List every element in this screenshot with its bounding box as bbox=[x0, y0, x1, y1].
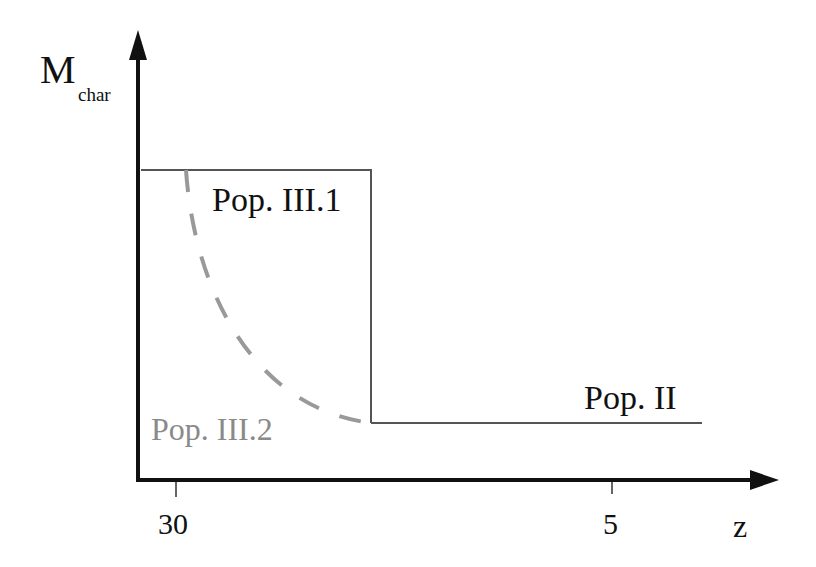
x-axis-label: z bbox=[733, 510, 747, 542]
y-axis-arrow-icon bbox=[129, 30, 147, 60]
y-axis-label-subscript: char bbox=[78, 85, 111, 104]
x-axis-arrow-icon bbox=[750, 470, 779, 490]
diagram-svg bbox=[0, 0, 816, 567]
pop31-label: Pop. III.1 bbox=[212, 183, 341, 217]
diagram-canvas: M char 30 5 z Pop. III.1 Pop. III.2 Pop.… bbox=[0, 0, 816, 567]
tick-label-5: 5 bbox=[603, 509, 618, 539]
pop32-label: Pop. III.2 bbox=[151, 413, 273, 445]
tick-label-30: 30 bbox=[158, 509, 188, 539]
pop2-label: Pop. II bbox=[584, 381, 677, 415]
y-axis-label: M bbox=[40, 50, 76, 90]
